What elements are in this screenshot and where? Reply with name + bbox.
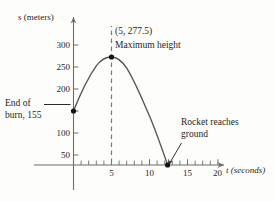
- x-axis-minor-ticks: [81, 161, 210, 165]
- rocket-reaches-ground-label-line2: ground: [181, 129, 208, 140]
- y-tick-label-50: 50: [48, 150, 70, 160]
- maximum-height-point: [109, 54, 114, 59]
- x-axis-title: t (seconds): [226, 165, 265, 175]
- ground-impact-point: [165, 162, 170, 167]
- y-axis: [71, 17, 77, 190]
- maximum-height-label: Maximum height: [115, 40, 181, 51]
- y-tick-label-250: 250: [48, 62, 70, 72]
- y-tick-label-300: 300: [48, 40, 70, 50]
- rocket-reaches-ground-label-line1: Rocket reaches: [181, 117, 239, 128]
- x-tick-label-15: 15: [179, 168, 196, 178]
- end-of-burn-label-line1: End of: [5, 98, 31, 109]
- rocket-trajectory-figure: s (meters) t (seconds) 300 250 200 100 5…: [0, 0, 275, 201]
- vertex-coordinate-label: (5, 277.5): [115, 26, 152, 37]
- y-tick-label-100: 100: [48, 128, 70, 138]
- x-tick-label-10: 10: [141, 168, 158, 178]
- y-tick-label-200: 200: [48, 84, 70, 94]
- y-axis-title: s (meters): [18, 12, 54, 22]
- x-tick-label-5: 5: [103, 168, 120, 178]
- x-tick-label-20: 20: [209, 168, 226, 178]
- trajectory-curve: [74, 57, 168, 165]
- end-of-burn-label-line2: burn, 155: [5, 110, 41, 121]
- end-of-burn-point: [71, 108, 76, 113]
